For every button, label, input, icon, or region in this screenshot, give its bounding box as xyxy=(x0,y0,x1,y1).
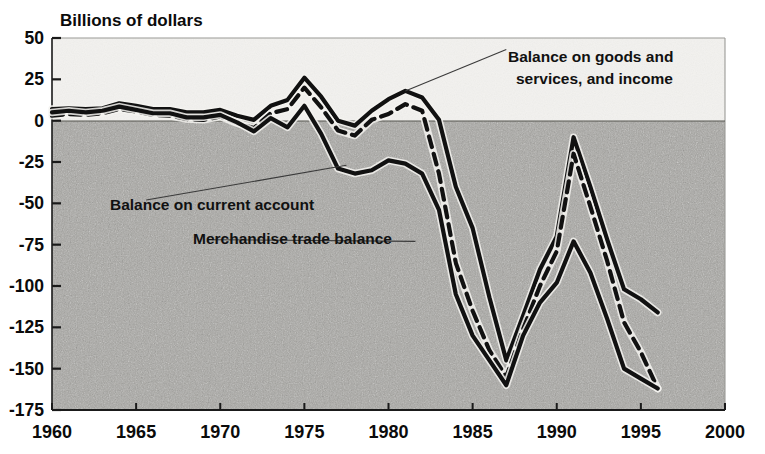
x-tick-label: 1985 xyxy=(453,422,493,442)
y-tick-label: 0 xyxy=(34,111,44,131)
x-tick-label: 1995 xyxy=(621,422,661,442)
annotation-goods-services-line1: Balance on goods and xyxy=(508,48,673,65)
x-tick-label: 1965 xyxy=(116,422,156,442)
annotation-merchandise-trade: Merchandise trade balance xyxy=(193,230,392,247)
plot-background xyxy=(52,38,725,410)
chart-figure: 50250-25-50-75-100-125-150-175 196019651… xyxy=(0,0,765,454)
y-tick-label: -50 xyxy=(19,193,45,213)
x-tick-label: 1975 xyxy=(284,422,324,442)
x-tick-label: 1980 xyxy=(368,422,408,442)
y-tick-label: -75 xyxy=(19,235,45,255)
x-tick-label: 1970 xyxy=(200,422,240,442)
x-tick-label: 1990 xyxy=(537,422,577,442)
axis-title: Billions of dollars xyxy=(60,11,203,30)
y-tick-label: -150 xyxy=(9,359,44,379)
y-tick-label: -175 xyxy=(9,400,44,420)
y-tick-label: -100 xyxy=(9,276,44,296)
chart-svg: 50250-25-50-75-100-125-150-175 196019651… xyxy=(0,0,765,454)
annotation-goods-services-line2: services, and income xyxy=(516,70,673,87)
y-tick-label: 25 xyxy=(25,69,45,89)
annotation-current-account: Balance on current account xyxy=(110,196,314,213)
y-tick-label: -125 xyxy=(9,317,44,337)
x-tick-label: 1960 xyxy=(32,422,72,442)
y-tick-label: -25 xyxy=(19,152,45,172)
x-tick-label: 2000 xyxy=(705,422,745,442)
y-tick-label: 50 xyxy=(25,28,45,48)
